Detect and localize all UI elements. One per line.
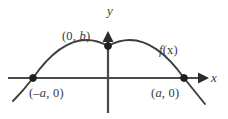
point-right-root — [181, 75, 188, 82]
left-root-label-prefix: (– — [29, 86, 40, 100]
vertex-label: (0, b) — [62, 30, 90, 43]
function-label: f(x) — [159, 44, 178, 57]
x-axis-label: x — [211, 71, 217, 84]
parabola-figure: y x (0, b) f(x) (–a, 0) (a, 0) — [0, 0, 228, 119]
function-label-argument: (x) — [163, 43, 178, 57]
figure-canvas — [0, 0, 228, 119]
y-axis-label: y — [107, 4, 113, 17]
right-root-label-suffix: , 0) — [162, 86, 179, 100]
point-left-root — [30, 75, 37, 82]
x-axis-arrow-icon — [198, 73, 209, 84]
left-root-label: (–a, 0) — [29, 87, 64, 100]
y-axis-arrow-icon — [103, 31, 114, 42]
right-root-label: (a, 0) — [151, 87, 179, 100]
vertex-label-prefix: (0, — [62, 29, 79, 43]
point-vertex — [105, 43, 112, 50]
left-root-label-suffix: , 0) — [46, 86, 63, 100]
vertex-label-suffix: ) — [86, 29, 90, 43]
